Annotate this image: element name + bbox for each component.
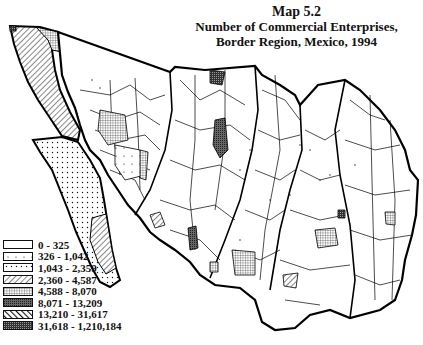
legend-item: 0 - 325 — [3, 239, 121, 251]
region-nl-hatch — [283, 273, 298, 288]
legend-swatch-bold-diagonal — [3, 310, 33, 319]
legend-item: 8,071 - 13,209 — [3, 297, 121, 309]
legend-swatch-fine-grid — [3, 287, 33, 296]
legend-swatch-dense-stipple — [3, 298, 33, 307]
region-coahuila-grid — [210, 262, 218, 272]
legend-label: 31,618 - 1,210,184 — [38, 320, 121, 332]
legend-item: 1,043 - 2,359 — [3, 262, 121, 274]
legend-label: 326 - 1,042 — [38, 250, 88, 262]
region-monterrey — [315, 228, 338, 248]
region-torreon — [188, 226, 198, 250]
legend-item: 13,210 - 31,617 — [3, 309, 121, 321]
region-tijuana — [10, 26, 16, 31]
legend-item: 4,588 - 8,070 — [3, 285, 121, 297]
legend-swatch-dots — [3, 263, 33, 272]
legend-swatch-sparse-dots — [3, 252, 33, 261]
legend-label: 13,210 - 31,617 — [38, 308, 108, 320]
region-saltillo — [232, 250, 255, 275]
legend-label: 2,360 - 4,587 — [38, 274, 97, 286]
legend-swatch-diagonal-hatch — [3, 275, 33, 284]
legend-label: 0 - 325 — [38, 239, 69, 251]
legend-item: 2,360 - 4,587 — [3, 274, 121, 286]
legend-swatch-blank — [3, 240, 33, 249]
legend-label: 1,043 - 2,359 — [38, 262, 97, 274]
legend-swatch-dark-grid — [3, 321, 33, 330]
map-subtitle: Border Region, Mexico, 1994 — [170, 34, 423, 49]
map-number: Map 5.2 — [170, 4, 423, 19]
legend: 0 - 325 326 - 1,042 1,043 - 2,359 2,360 … — [3, 239, 121, 332]
legend-item: 31,618 - 1,210,184 — [3, 320, 121, 332]
legend-label: 4,588 - 8,070 — [38, 285, 97, 297]
map-title-block: Map 5.2 Number of Commercial Enterprises… — [170, 4, 423, 49]
legend-label: 8,071 - 13,209 — [38, 297, 102, 309]
region-nl-dark — [338, 210, 345, 218]
map-title: Number of Commercial Enterprises, — [170, 19, 423, 34]
region-juarez — [210, 70, 225, 85]
region-matamoros — [385, 212, 395, 225]
legend-item: 326 - 1,042 — [3, 251, 121, 263]
